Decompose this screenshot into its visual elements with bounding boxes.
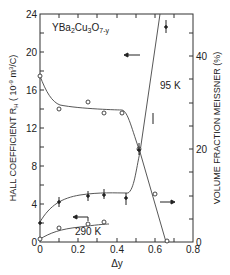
- y-right-tick-labels: 0 20 40: [196, 51, 208, 248]
- formula-title: YBa2Cu3O7-y: [52, 22, 110, 35]
- y-right-axis-ticks: [189, 33, 193, 219]
- label-290k: 290 K: [75, 226, 101, 237]
- y-right-axis-label: VOLUME FRACTION MEISSNER (%): [212, 52, 222, 205]
- plot-frame: [40, 14, 193, 242]
- chart-svg: 0 0.2 0.4 0.6 0.8 Δy 0 4 8 12 16 20 24 0…: [0, 0, 230, 275]
- curve-meissner-fraction: [140, 152, 166, 242]
- x-axis-ticks: [59, 14, 174, 242]
- y-right-tick-40: 40: [196, 51, 208, 62]
- y-right-tick-20: 20: [196, 144, 208, 155]
- x-tick-0-2: 0.2: [71, 244, 85, 255]
- x-tick-labels: 0 0.2 0.4 0.6 0.8: [37, 244, 200, 255]
- y-left-tick-labels: 0 4 8 12 16 20 24: [26, 9, 38, 248]
- y-left-tick-20: 20: [26, 47, 38, 58]
- curve-hall-95k: [40, 76, 140, 152]
- y-left-tick-16: 16: [26, 85, 38, 96]
- y-left-tick-24: 24: [26, 9, 38, 20]
- x-axis-label: Δy: [111, 258, 123, 269]
- y-left-tick-4: 4: [31, 199, 37, 210]
- label-95k: 95 K: [160, 80, 181, 91]
- y-left-tick-8: 8: [31, 161, 37, 172]
- y-right-tick-0: 0: [196, 237, 202, 248]
- y-left-axis-label: HALL COEFFICIENT RH ( 10-9 m3/C): [8, 55, 19, 202]
- curve-hall-290k: [40, 14, 160, 222]
- x-tick-0: 0: [37, 244, 43, 255]
- hall-coefficient-chart: 0 0.2 0.4 0.6 0.8 Δy 0 4 8 12 16 20 24 0…: [0, 0, 230, 275]
- markers-hall-290k: [39, 20, 168, 224]
- y-left-tick-0: 0: [31, 237, 37, 248]
- y-left-axis-ticks: [40, 33, 44, 223]
- y-left-tick-12: 12: [26, 123, 38, 134]
- x-tick-0-6: 0.6: [148, 244, 162, 255]
- fit-curves: [40, 14, 166, 242]
- markers-meissner: [153, 192, 169, 243]
- x-tick-0-4: 0.4: [110, 244, 124, 255]
